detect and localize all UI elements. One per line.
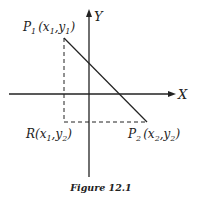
- point-r-label: R(x1,y2): [25, 127, 72, 143]
- segment-p1-p2: [64, 38, 147, 122]
- point-p1-label: P1(x1,y1): [22, 20, 75, 36]
- coordinate-diagram: X Y P1(x1,y1) R(x1,y2) P2(x2,y2) Figure …: [0, 0, 197, 199]
- x-axis-label: X: [177, 87, 188, 102]
- x-axis-arrow-icon: [168, 91, 176, 97]
- figure-caption: Figure 12.1: [69, 182, 131, 193]
- y-axis-arrow-icon: [86, 9, 92, 17]
- y-axis-label: Y: [94, 9, 104, 24]
- x-axis: X: [9, 87, 188, 102]
- y-axis: Y: [86, 9, 104, 177]
- point-p2-label: P2(x2,y2): [127, 127, 180, 143]
